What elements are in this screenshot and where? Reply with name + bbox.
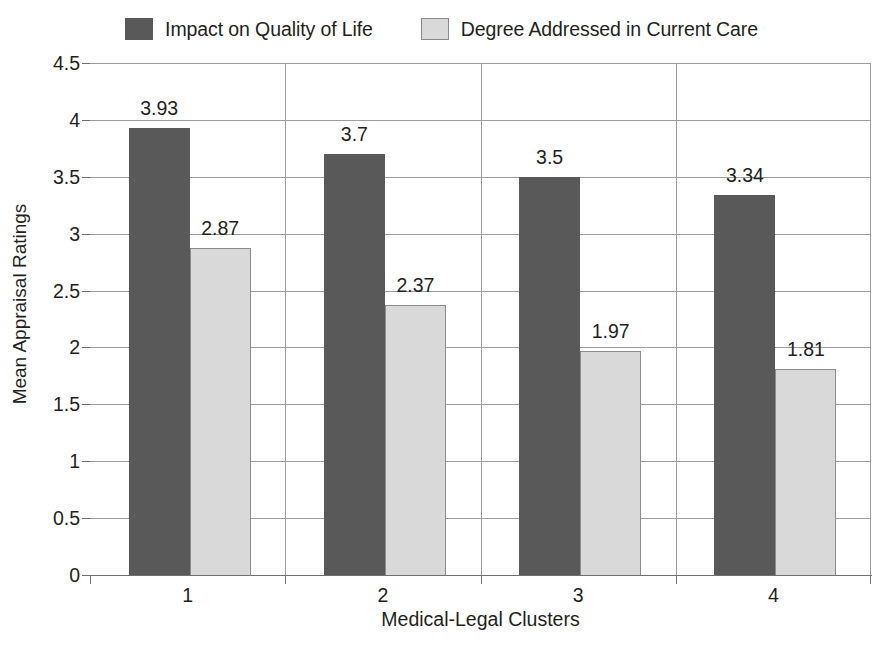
- bar-chart: Impact on Quality of Life Degree Address…: [0, 0, 883, 651]
- legend-label-impact-on-quality-of-life: Impact on Quality of Life: [165, 18, 373, 41]
- x-tick-mark: [676, 575, 677, 584]
- y-tick-mark: [82, 234, 90, 235]
- bar-value-label: 3.93: [140, 97, 178, 120]
- y-tick-label: 2: [8, 336, 80, 359]
- bar-series-1-category-2[interactable]: [324, 154, 385, 575]
- y-tick-label: 4: [8, 108, 80, 131]
- x-tick-label-4: 4: [768, 584, 779, 607]
- chart-legend: Impact on Quality of Life Degree Address…: [0, 12, 883, 46]
- y-tick-label: 0: [8, 564, 80, 587]
- bar-series-1-category-1[interactable]: [129, 128, 190, 575]
- y-tick-label: 3: [8, 222, 80, 245]
- bar-series-2-category-2[interactable]: [385, 305, 446, 575]
- bar-value-label: 1.97: [592, 320, 630, 343]
- y-tick-label: 4.5: [8, 52, 80, 75]
- x-axis-title: Medical-Legal Clusters: [90, 608, 871, 631]
- x-tick-label-3: 3: [573, 584, 584, 607]
- category-divider: [285, 63, 286, 576]
- legend-entry-impact-on-quality-of-life[interactable]: Impact on Quality of Life: [125, 18, 373, 41]
- bar-series-1-category-4[interactable]: [714, 195, 775, 575]
- bar-value-label: 1.81: [787, 338, 825, 361]
- y-tick-mark: [82, 404, 90, 405]
- legend-swatch-icon-light: [421, 18, 449, 40]
- bar-series-2-category-4[interactable]: [775, 369, 836, 575]
- y-tick-label: 3.5: [8, 165, 80, 188]
- x-tick-label-2: 2: [377, 584, 388, 607]
- y-tick-mark: [82, 63, 90, 64]
- category-divider: [481, 63, 482, 576]
- y-tick-label: 0.5: [8, 507, 80, 530]
- bar-value-label: 2.37: [396, 274, 434, 297]
- x-tick-mark: [870, 575, 871, 584]
- bar-series-1-category-3[interactable]: [519, 177, 580, 575]
- y-tick-mark: [82, 120, 90, 121]
- category-divider: [676, 63, 677, 576]
- x-tick-mark: [285, 575, 286, 584]
- bar-value-label: 3.7: [341, 123, 368, 146]
- y-tick-mark: [82, 575, 90, 576]
- bar-series-2-category-1[interactable]: [190, 248, 251, 575]
- bar-value-label: 3.5: [536, 146, 563, 169]
- y-tick-mark: [82, 177, 90, 178]
- plot-area: 3.932.873.72.373.51.973.341.81: [90, 63, 871, 575]
- y-tick-label: 2.5: [8, 279, 80, 302]
- y-tick-mark: [82, 291, 90, 292]
- x-tick-label-1: 1: [182, 584, 193, 607]
- y-tick-label: 1.5: [8, 393, 80, 416]
- y-tick-mark: [82, 518, 90, 519]
- y-axis-ticks: 4.543.532.521.510.50: [0, 0, 80, 651]
- bar-series-2-category-3[interactable]: [580, 351, 641, 575]
- y-tick-label: 1: [8, 450, 80, 473]
- plot-right-border: [870, 63, 871, 576]
- x-tick-mark: [481, 575, 482, 584]
- legend-label-degree-addressed-in-current-care: Degree Addressed in Current Care: [461, 18, 758, 41]
- bar-value-label: 3.34: [726, 164, 764, 187]
- legend-swatch-icon-dark: [125, 18, 153, 40]
- y-tick-mark: [82, 461, 90, 462]
- bar-value-label: 2.87: [201, 217, 239, 240]
- legend-entry-degree-addressed-in-current-care[interactable]: Degree Addressed in Current Care: [421, 18, 758, 41]
- x-tick-mark: [90, 575, 91, 584]
- y-tick-mark: [82, 347, 90, 348]
